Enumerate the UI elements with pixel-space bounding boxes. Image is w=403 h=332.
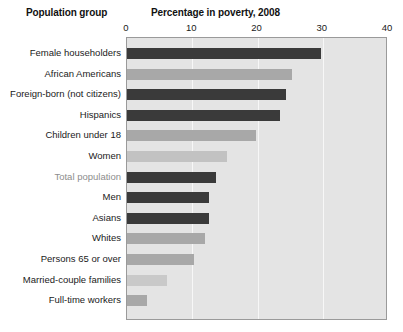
bar-series	[127, 38, 386, 319]
category-label: African Americans	[0, 68, 121, 79]
bar	[127, 69, 292, 80]
category-label: Persons 65 or over	[0, 253, 121, 264]
category-label: Total population	[0, 171, 121, 182]
bar	[127, 151, 227, 162]
bar	[127, 233, 205, 244]
x-tick-40: 40	[382, 22, 393, 33]
category-label: Whites	[0, 232, 121, 243]
bar	[127, 110, 280, 121]
category-label: Children under 18	[0, 129, 121, 140]
category-label: Men	[0, 191, 121, 202]
bar	[127, 192, 209, 203]
poverty-bar-chart: Population group Percentage in poverty, …	[0, 0, 403, 332]
bar	[127, 130, 256, 141]
category-label: Female householders	[0, 47, 121, 58]
plot-area	[126, 37, 387, 320]
x-tick-10: 10	[186, 22, 197, 33]
chart-title: Percentage in poverty, 2008	[151, 7, 280, 18]
category-label: Hispanics	[0, 109, 121, 120]
x-tick-0: 0	[123, 22, 128, 33]
bar	[127, 275, 167, 286]
category-label: Asians	[0, 212, 121, 223]
bar	[127, 254, 194, 265]
category-label: Foreign-born (not citizens)	[0, 88, 121, 99]
bar	[127, 89, 286, 100]
category-axis-labels: Female householdersAfrican AmericansFore…	[0, 37, 121, 320]
x-tick-30: 30	[316, 22, 327, 33]
bar	[127, 295, 147, 306]
category-label: Full-time workers	[0, 294, 121, 305]
category-label: Married-couple families	[0, 274, 121, 285]
bar	[127, 48, 321, 59]
population-group-header: Population group	[26, 7, 107, 18]
x-tick-20: 20	[251, 22, 262, 33]
category-label: Women	[0, 150, 121, 161]
bar	[127, 172, 216, 183]
x-axis-tick-labels: 010203040	[126, 22, 387, 36]
bar	[127, 213, 209, 224]
